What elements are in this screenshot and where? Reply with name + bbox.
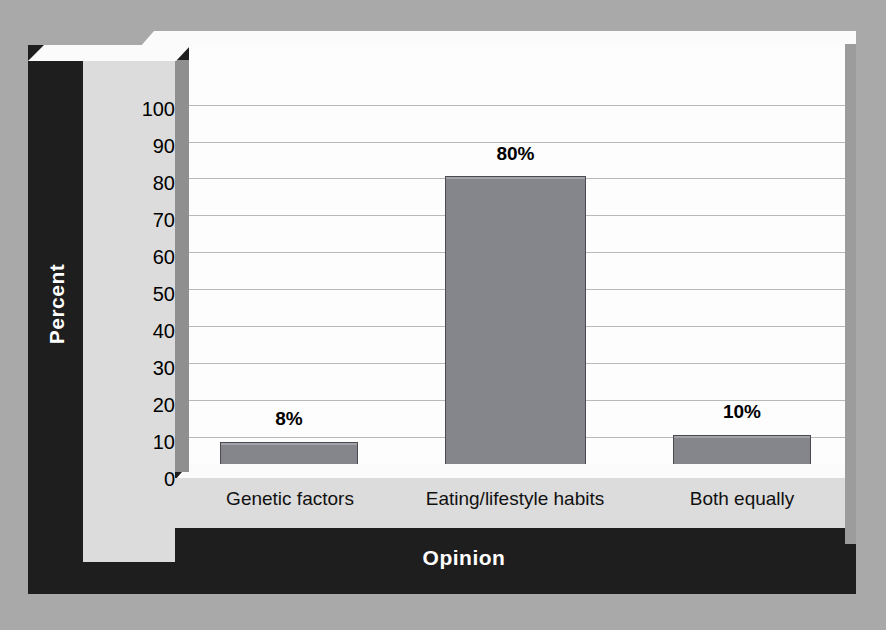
y-tick-50: 50	[101, 284, 175, 304]
bar-top-highlight	[221, 443, 357, 445]
bar-value-label-eating-lifestyle-habits: 80%	[445, 143, 586, 165]
y-tick-40: 40	[101, 321, 175, 341]
y-tick-10: 10	[101, 432, 175, 452]
y-tick-80: 80	[101, 173, 175, 193]
bar-value-label-genetic-factors: 8%	[220, 408, 358, 430]
y-tick-60: 60	[101, 247, 175, 267]
y-axis-top-bevel	[28, 45, 191, 61]
y-tick-20: 20	[101, 395, 175, 415]
chart-frame-right-edge	[845, 44, 856, 544]
y-tick-100: 100	[101, 99, 175, 119]
bar-top-highlight	[674, 436, 810, 438]
chart-figure: 8% 80% 10% Genetic factors Eating/lifest…	[0, 0, 886, 630]
chart-frame-top-bevel	[140, 31, 856, 47]
bar-top-highlight	[446, 177, 585, 179]
y-tick-70: 70	[101, 210, 175, 230]
y-axis-dark-face: Percent	[28, 60, 83, 562]
y-axis-tick-labels: 100 90 80 70 60 50 40 30 20 10 0	[83, 60, 175, 562]
category-label-genetic-factors: Genetic factors	[200, 488, 380, 510]
y-tick-0: 0	[101, 469, 175, 489]
y-tick-90: 90	[101, 136, 175, 156]
y-axis-right-shadow	[175, 60, 189, 472]
bar-eating-lifestyle-habits[interactable]	[445, 176, 586, 473]
category-label-eating-lifestyle-habits: Eating/lifestyle habits	[415, 488, 615, 510]
bar-value-label-both-equally: 10%	[673, 401, 811, 423]
y-axis-title: Percent	[45, 179, 69, 429]
category-label-both-equally: Both equally	[652, 488, 832, 510]
x-axis-title: Opinion	[83, 546, 845, 570]
y-tick-30: 30	[101, 358, 175, 378]
gridline-100	[189, 105, 845, 106]
